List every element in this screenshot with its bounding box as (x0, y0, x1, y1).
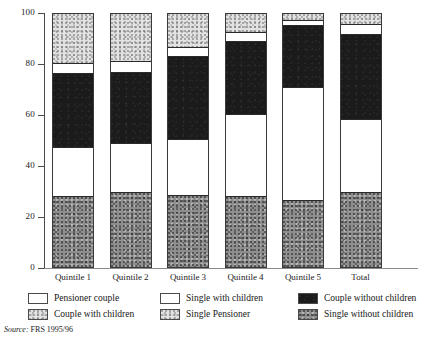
stacked-bar[interactable] (167, 13, 209, 268)
bar-segment[interactable] (341, 24, 381, 34)
legend-label: Single with children (186, 293, 263, 304)
stacked-bar[interactable] (110, 13, 152, 268)
legend-label: Single Pensioner (186, 309, 250, 320)
bar-segment[interactable] (341, 119, 381, 192)
stacked-bar[interactable] (282, 13, 324, 268)
bar-segment[interactable] (226, 14, 266, 32)
legend-swatch (28, 293, 48, 304)
bar-segment[interactable] (226, 196, 266, 267)
x-axis-line (44, 268, 418, 269)
y-tick-label-wrap-80: 80 (0, 59, 35, 68)
source-prefix: Source: (4, 325, 29, 334)
y-tick-label-wrap-20: 20 (0, 212, 35, 221)
y-tick-label-0: 0 (30, 263, 35, 272)
legend-item[interactable]: Single Pensioner (160, 309, 250, 320)
x-category-label: Quintile 2 (100, 272, 162, 282)
y-tick-label-wrap-60: 60 (0, 110, 35, 119)
x-category-label: Quintile 4 (215, 272, 277, 282)
bar-segment[interactable] (53, 14, 93, 63)
bar-segment[interactable] (111, 72, 151, 143)
bar-segment[interactable] (341, 14, 381, 24)
legend-item[interactable]: Single with children (160, 293, 263, 304)
legend-swatch (160, 309, 180, 320)
bar-group[interactable] (167, 13, 209, 268)
bar-segment[interactable] (111, 143, 151, 192)
bar-segment[interactable] (111, 192, 151, 267)
bar-segment[interactable] (168, 195, 208, 267)
y-tick-label-100: 100 (21, 8, 35, 17)
bar-segment[interactable] (168, 139, 208, 195)
stacked-bar[interactable] (52, 13, 94, 268)
bar-segment[interactable] (111, 61, 151, 72)
bar-group[interactable] (282, 13, 324, 268)
y-tick-label-wrap-100: 100 (0, 8, 35, 17)
legend-item[interactable]: Pensioner couple (28, 293, 119, 304)
bar-segment[interactable] (283, 25, 323, 87)
y-tick-label-60: 60 (26, 110, 35, 119)
plot-area: 100806040200 Quintile 1Quintile 2Quintil… (0, 0, 424, 278)
bar-group[interactable] (110, 13, 152, 268)
bar-segment[interactable] (53, 73, 93, 146)
bar-group[interactable] (340, 13, 382, 268)
chart-legend: Pensioner coupleCouple with childrenSing… (0, 292, 424, 326)
legend-label: Single without children (324, 309, 413, 320)
y-tick-label-wrap-0: 0 (0, 263, 35, 272)
bar-segment[interactable] (168, 47, 208, 56)
bar-segment[interactable] (226, 32, 266, 41)
bar-segment[interactable] (111, 14, 151, 61)
source-text: FRS 1995/96 (31, 325, 73, 334)
y-tick-label-20: 20 (26, 212, 35, 221)
stacked-bar[interactable] (340, 13, 382, 268)
bar-segment[interactable] (226, 114, 266, 196)
bar-segment[interactable] (168, 14, 208, 47)
x-category-label: Quintile 1 (42, 272, 104, 282)
legend-label: Couple without children (324, 293, 416, 304)
bar-segment[interactable] (341, 34, 381, 119)
bar-segment[interactable] (53, 196, 93, 267)
legend-label: Couple with children (54, 309, 134, 320)
x-category-label: Total (330, 272, 392, 282)
legend-item[interactable]: Couple without children (298, 293, 416, 304)
bar-segment[interactable] (168, 56, 208, 139)
bar-series-container (44, 13, 418, 268)
legend-item[interactable]: Single without children (298, 309, 413, 320)
bar-segment[interactable] (53, 63, 93, 74)
legend-swatch (298, 309, 318, 320)
bar-group[interactable] (225, 13, 267, 268)
source-note: Source: FRS 1995/96 (4, 325, 73, 334)
bar-segment[interactable] (283, 87, 323, 200)
y-tick-label-80: 80 (26, 59, 35, 68)
x-category-label: Quintile 5 (272, 272, 334, 282)
y-tick-0 (38, 268, 44, 269)
x-category-label: Quintile 3 (157, 272, 219, 282)
bar-segment[interactable] (341, 192, 381, 267)
bar-group[interactable] (52, 13, 94, 268)
legend-swatch (28, 309, 48, 320)
legend-swatch (298, 293, 318, 304)
legend-item[interactable]: Couple with children (28, 309, 134, 320)
y-tick-label-wrap-40: 40 (0, 161, 35, 170)
bar-segment[interactable] (226, 41, 266, 114)
stacked-bar[interactable] (225, 13, 267, 268)
bar-segment[interactable] (53, 147, 93, 196)
y-tick-label-40: 40 (26, 161, 35, 170)
stacked-bar-chart: 100806040200 Quintile 1Quintile 2Quintil… (0, 0, 424, 340)
legend-label: Pensioner couple (54, 293, 119, 304)
legend-swatch (160, 293, 180, 304)
bar-segment[interactable] (283, 200, 323, 267)
